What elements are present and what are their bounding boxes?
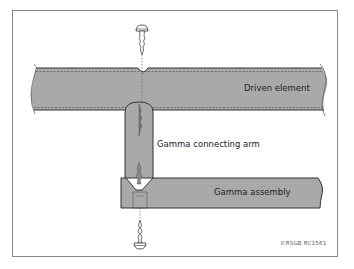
gamma-assembly-label: Gamma assembly <box>214 187 291 197</box>
gamma-connecting-arm-label: Gamma connecting arm <box>157 139 260 149</box>
gamma-connecting-arm <box>125 102 153 184</box>
frame-border <box>13 11 338 257</box>
driven-element-label: Driven element <box>244 83 310 93</box>
gamma-match-diagram <box>0 0 354 269</box>
copyright-notice: ©RSGB RC1561 <box>280 240 326 246</box>
